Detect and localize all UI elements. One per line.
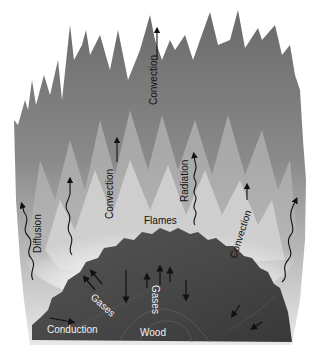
label-diffusion: Diffusion bbox=[32, 214, 43, 253]
label-radiation: Radiation bbox=[179, 160, 190, 202]
label-conduction: Conduction bbox=[47, 324, 98, 335]
label-convection-top: Convection bbox=[148, 55, 159, 105]
label-convection-left: Convection bbox=[104, 169, 115, 219]
label-flames: Flames bbox=[144, 215, 177, 226]
label-gases-center: Gases bbox=[150, 285, 161, 314]
label-wood: Wood bbox=[140, 327, 166, 338]
fire-heat-transfer-diagram: Convection Convection Radiation Diffusio… bbox=[0, 0, 319, 353]
